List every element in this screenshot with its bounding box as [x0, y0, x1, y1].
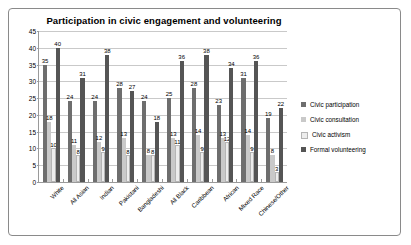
x-axis-tick-label: White — [49, 184, 65, 200]
bar-value-label: 35 — [42, 58, 49, 65]
y-axis-tick-label: 15 — [29, 128, 36, 135]
legend-item[interactable]: Civic consultation — [301, 116, 397, 124]
bar-group: 2813827 — [113, 31, 138, 182]
bar-value-label: 18 — [46, 115, 53, 122]
chart-title: Participation in civic engagement and vo… — [9, 15, 319, 26]
y-axis-tick-label: 30 — [29, 78, 36, 85]
legend-item[interactable]: Civic activism — [301, 131, 397, 139]
bar-value-label: 38 — [203, 48, 210, 55]
bar-groups: 3518104024118312412938281382724881825131… — [39, 31, 287, 182]
bar-value-label: 11 — [71, 138, 77, 145]
bar-value-label: 12 — [96, 135, 103, 142]
bar: 27 — [130, 91, 134, 182]
x-axis-tick-label: All Asian — [69, 184, 91, 206]
bar-group: 3114936 — [237, 31, 262, 182]
chart-legend: Civic participationCivic consultationCiv… — [301, 101, 397, 161]
bar-value-label: 28 — [116, 81, 123, 88]
bar-group: 2411831 — [64, 31, 89, 182]
bar-value-label: 18 — [154, 115, 161, 122]
bar-value-label: 14 — [195, 128, 202, 135]
legend-label: Formal volunteering — [310, 146, 366, 154]
legend-swatch-icon — [301, 132, 308, 139]
bar-value-label: 27 — [129, 84, 136, 91]
bar-group: 25131136 — [163, 31, 188, 182]
bar-value-label: 8 — [147, 148, 150, 155]
bar-group: 23131234 — [213, 31, 238, 182]
bar-value-label: 23 — [215, 98, 222, 105]
bar: 31 — [80, 78, 84, 182]
bar: 34 — [229, 68, 233, 182]
plot-area: 051015202530354045 351810402411831241293… — [38, 31, 287, 183]
bar-value-label: 34 — [228, 61, 235, 68]
bar: 18 — [155, 122, 159, 182]
bar-group: 248818 — [138, 31, 163, 182]
bar-group: 198322 — [262, 31, 287, 182]
bar-value-label: 13 — [120, 131, 127, 138]
bar-group: 2412938 — [89, 31, 114, 182]
bar-value-label: 36 — [253, 54, 260, 61]
y-axis-tick-label: 25 — [29, 95, 36, 102]
bar-value-label: 40 — [54, 41, 61, 48]
bar: 36 — [180, 61, 184, 182]
y-axis-tick-label: 20 — [29, 111, 36, 118]
y-axis-tick-label: 45 — [29, 28, 36, 35]
x-axis-tick-label: Pakistani — [117, 184, 140, 207]
bar-group: 2814938 — [188, 31, 213, 182]
x-axis-tick-label: Caribbean — [190, 184, 215, 209]
bar-value-label: 8 — [271, 148, 274, 155]
legend-label: Civic consultation — [310, 116, 359, 124]
bar-value-label: 24 — [91, 94, 98, 101]
bar-value-label: 36 — [178, 54, 185, 61]
legend-swatch-icon — [301, 102, 306, 107]
chart-container: Participation in civic engagement and vo… — [8, 8, 401, 236]
y-tick-mark — [37, 182, 39, 183]
legend-item[interactable]: Formal volunteering — [301, 146, 397, 154]
y-axis-tick-label: 5 — [32, 162, 36, 169]
bar-value-label: 24 — [141, 94, 148, 101]
bar: 40 — [56, 48, 60, 182]
bar-value-label: 25 — [166, 91, 173, 98]
y-axis-tick-label: 40 — [29, 44, 36, 51]
bar-value-label: 14 — [244, 128, 251, 135]
bar-value-label: 28 — [191, 81, 198, 88]
bar-value-label: 19 — [265, 111, 272, 118]
x-axis-tick-label: Indian — [98, 184, 115, 201]
bar-group: 35181040 — [39, 31, 64, 182]
bar-value-label: 22 — [278, 101, 285, 108]
bar-value-label: 31 — [240, 71, 247, 78]
legend-swatch-icon — [301, 147, 306, 152]
bar: 22 — [279, 108, 283, 182]
bar-value-label: 13 — [170, 131, 177, 138]
bar-value-label: 24 — [67, 94, 74, 101]
legend-item[interactable]: Civic participation — [301, 101, 397, 109]
y-axis-tick-label: 0 — [32, 179, 36, 186]
x-axis-tick-label: African — [221, 184, 240, 203]
bar: 38 — [105, 55, 109, 183]
x-axis-labels: WhiteAll AsianIndianPakistaniBangladeshi… — [38, 184, 287, 234]
legend-label: Civic participation — [310, 101, 359, 109]
bar: 36 — [254, 61, 258, 182]
x-axis-tick-label: All Black — [168, 184, 190, 206]
y-axis-tick-label: 35 — [29, 61, 36, 68]
bar-value-label: 31 — [79, 71, 86, 78]
legend-swatch-icon — [301, 117, 306, 122]
y-axis-tick-label: 10 — [29, 145, 36, 152]
legend-label: Civic activism — [312, 131, 350, 139]
bar: 38 — [204, 55, 208, 183]
bar-value-label: 38 — [104, 48, 111, 55]
